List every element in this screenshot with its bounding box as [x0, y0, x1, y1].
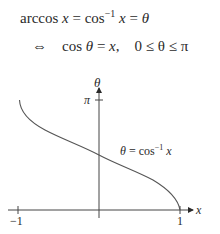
- arccos-graph: θ x π −1 1 θ = cos−1 x: [0, 0, 220, 234]
- one-label: 1: [177, 214, 183, 228]
- arccos-curve: [20, 100, 181, 210]
- theta-axis-label: θ: [94, 75, 101, 90]
- x-axis-label: x: [195, 203, 202, 217]
- neg-one-label: −1: [10, 214, 23, 228]
- curve-label: θ = cos−1 x: [120, 143, 172, 158]
- pi-label: π: [84, 93, 91, 107]
